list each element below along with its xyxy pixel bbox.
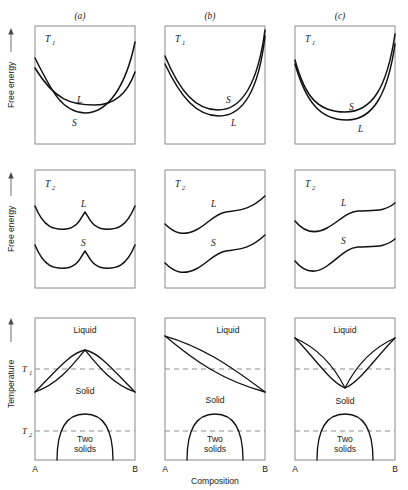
tick-t1-sub: 1 <box>29 369 32 376</box>
tick-t2-sub: 2 <box>29 431 33 438</box>
panel-c-t1-temp-sub: 1 <box>312 39 315 46</box>
panel-b-free-energy-t1: (b) T 1 S L <box>165 11 265 144</box>
panel-c-t1-liquid-label: L <box>357 124 363 134</box>
free-energy-axis-label-row2: Free energy <box>6 205 16 252</box>
panel-c-endpoint-b: B <box>392 464 398 474</box>
panel-a-t1-temp-sub: 1 <box>52 39 55 46</box>
panel-a-t1-temp-label: T <box>45 34 51 44</box>
panel-b-endpoint-a: A <box>162 464 168 474</box>
free-energy-axis-label-row1: Free energy <box>6 61 16 108</box>
panel-a-t2-solid-curve <box>35 245 135 268</box>
panel-b-t1-liquid-curve <box>165 36 265 116</box>
temperature-arrow-head <box>8 318 13 325</box>
free-energy-arrow-head-row2 <box>8 172 13 179</box>
panel-a-endpoint-a: A <box>32 464 38 474</box>
free-energy-arrow-head-row1 <box>8 28 13 35</box>
figure-caption-cropped <box>0 481 408 490</box>
panel-c-t1-temp-label: T <box>305 34 311 44</box>
panel-a-t1-solid-curve <box>35 42 135 113</box>
panel-c-t2-liquid-label: L <box>340 198 346 208</box>
panel-a-t2-liquid-curve <box>35 206 135 229</box>
panel-b-region-two-solids-line2: solids <box>204 444 226 454</box>
panel-b-free-energy-t2: T 2 L S <box>165 170 265 288</box>
panel-b-label: (b) <box>204 11 215 22</box>
panel-c-liquidus-curve <box>295 338 395 388</box>
panel-c-t2-temp-label: T <box>305 179 311 189</box>
tick-t1-label: T <box>22 364 28 374</box>
panel-b-region-liquid: Liquid <box>217 325 240 335</box>
panel-a-t1-solid-label: S <box>72 118 77 128</box>
panel-b-t1-solid-label: S <box>226 95 231 105</box>
panel-c-endpoint-a: A <box>292 464 298 474</box>
free-energy-axis-row1: Free energy <box>6 28 16 108</box>
panel-c-label: (c) <box>335 11 346 22</box>
phase-diagram-figure: Free energy (a) T 1 L S (b) T 1 S L (c) … <box>0 0 408 490</box>
free-energy-axis-row2: Free energy <box>6 172 16 252</box>
panel-a-endpoint-b: B <box>132 464 138 474</box>
panel-a-region-solid: Solid <box>75 386 94 396</box>
panel-c-t2-temp-sub: 2 <box>312 184 316 191</box>
panel-c-region-solid: Solid <box>335 396 354 406</box>
panel-c-region-two-solids-line1: Two <box>337 434 353 444</box>
panel-b-t1-temp-label: T <box>175 34 181 44</box>
panel-c-region-two-solids-line2: solids <box>334 444 356 454</box>
panel-a-phase-diagram: Liquid Solid Two solids A B <box>32 318 138 474</box>
panel-a-region-two-solids-line1: Two <box>77 434 93 444</box>
panel-a-t2-solid-label: S <box>81 238 86 248</box>
panel-c-region-liquid: Liquid <box>334 325 357 335</box>
panel-a-t2-temp-sub: 2 <box>52 184 56 191</box>
panel-a-t2-liquid-label: L <box>80 199 86 209</box>
tick-t2-label: T <box>22 426 28 436</box>
panel-b-region-two-solids-line1: Two <box>207 434 223 444</box>
panel-b-t2-temp-label: T <box>175 179 181 189</box>
panel-a-t2-temp-label: T <box>45 179 51 189</box>
panel-a-free-energy-t2: T 2 L S <box>35 170 135 288</box>
panel-b-t1-temp-sub: 1 <box>182 39 185 46</box>
panel-b-phase-diagram: Liquid Solid Two solids A B <box>162 318 268 474</box>
panel-b-t1-liquid-label: L <box>230 118 236 128</box>
panel-c-free-energy-t2: T 2 L S <box>295 170 395 288</box>
panel-c-phase-diagram: Liquid Solid Two solids A B <box>292 318 398 474</box>
panel-b-t2-temp-sub: 2 <box>182 184 186 191</box>
panel-c-t1-liquid-curve <box>295 44 395 120</box>
panel-a-region-liquid: Liquid <box>74 325 97 335</box>
panel-a-region-two-solids-line2: solids <box>74 444 96 454</box>
temperature-ticks: T 1 T 2 <box>22 364 33 438</box>
panel-c-t1-solid-label: S <box>349 102 354 112</box>
panel-b-solidus-curve <box>165 336 265 392</box>
panel-a-free-energy-t1: (a) T 1 L S <box>35 11 135 144</box>
temperature-axis-label: Temperature <box>6 360 16 408</box>
panel-c-t2-solid-label: S <box>341 236 346 246</box>
panel-a-t1-liquid-label: L <box>76 95 82 105</box>
panel-b-endpoint-b: B <box>262 464 268 474</box>
panel-b-t2-solid-label: S <box>211 238 216 248</box>
panel-c-free-energy-t1: (c) T 1 S L <box>295 11 395 144</box>
temperature-axis: Temperature <box>6 318 16 408</box>
panel-b-region-solid: Solid <box>205 395 224 405</box>
panel-b-liquidus-curve <box>165 336 265 392</box>
figure-container: Free energy (a) T 1 L S (b) T 1 S L (c) … <box>0 0 408 490</box>
panel-a-label: (a) <box>74 11 85 22</box>
panel-b-t2-liquid-label: L <box>210 199 216 209</box>
panel-c-solidus-curve <box>295 338 395 388</box>
